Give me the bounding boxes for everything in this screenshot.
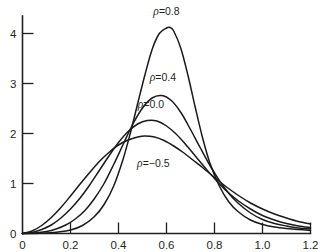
- x-tick-label: 1.2: [303, 239, 319, 251]
- curve-label: ρ=0.8: [152, 5, 179, 18]
- data-curves: [23, 27, 311, 233]
- curve-label: ρ=−0.5: [136, 157, 170, 170]
- y-tick-label: 3: [10, 78, 16, 90]
- y-axis-ticks: [23, 34, 34, 184]
- x-tick-label: 0.4: [111, 239, 128, 251]
- x-tick-label: 0.6: [159, 239, 175, 251]
- rho-value: =0.0: [143, 98, 164, 110]
- rho-value: =0.4: [155, 71, 176, 83]
- x-axis-tick-labels: 00.20.40.60.81.01.2: [19, 239, 318, 251]
- y-axis-tick-labels: 01234: [10, 28, 17, 240]
- x-tick-label: 0.2: [63, 239, 79, 251]
- curve-label: ρ=0.0: [137, 98, 164, 111]
- y-tick-label: 2: [10, 128, 16, 140]
- y-tick-label: 4: [10, 28, 17, 40]
- y-tick-label: 0: [10, 228, 16, 240]
- chart-figure: 01234 00.20.40.60.81.01.2 ρ=0.8ρ=0.4ρ=0.…: [0, 0, 329, 252]
- x-tick-label: 0: [19, 239, 25, 251]
- rho-value: =−0.5: [143, 157, 170, 169]
- x-tick-label: 0.8: [207, 239, 223, 251]
- chart-plot-area: 01234 00.20.40.60.81.01.2 ρ=0.8ρ=0.4ρ=0.…: [0, 0, 329, 252]
- y-tick-label: 1: [10, 178, 16, 190]
- x-tick-label: 1.0: [255, 239, 271, 251]
- rho-value: =0.8: [159, 5, 180, 17]
- curve-rho-0-0: [23, 120, 311, 233]
- curve-label: ρ=0.4: [149, 71, 176, 84]
- curve-rho-0-5: [23, 136, 311, 234]
